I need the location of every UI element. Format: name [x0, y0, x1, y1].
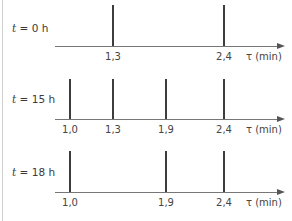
time-label: t = 15 h: [12, 93, 55, 105]
left-border: [2, 0, 3, 221]
peak-2-4: [223, 5, 225, 46]
peak-2-4: [223, 151, 225, 192]
peak-label: 1,3: [105, 124, 121, 135]
axis-arrow-icon: [277, 43, 285, 49]
axis-arrow-icon: [277, 189, 285, 195]
peak-label: 1,0: [62, 197, 78, 208]
axis-unit-label: τ (min): [246, 124, 282, 135]
peak-label: 1,0: [62, 124, 78, 135]
peak-label: 2,4: [216, 124, 232, 135]
peak-1-0: [69, 151, 71, 192]
peak-2-4: [223, 79, 225, 119]
peak-1-0: [69, 79, 71, 119]
tau-axis: [55, 46, 277, 47]
tau-axis: [55, 192, 277, 193]
peak-1-3: [112, 79, 114, 119]
peak-label: 1,3: [105, 51, 121, 62]
peak-1-3: [112, 5, 114, 46]
peak-label: 2,4: [216, 197, 232, 208]
peak-1-9: [165, 151, 167, 192]
axis-unit-label: τ (min): [246, 197, 282, 208]
time-label: t = 18 h: [12, 166, 55, 178]
tau-axis: [55, 119, 277, 120]
peak-label: 1,9: [158, 197, 174, 208]
peak-label: 1,9: [158, 124, 174, 135]
peak-1-9: [165, 79, 167, 119]
axis-arrow-icon: [277, 116, 285, 122]
time-label: t = 0 h: [12, 22, 48, 34]
axis-unit-label: τ (min): [246, 51, 282, 62]
peak-label: 2,4: [216, 51, 232, 62]
